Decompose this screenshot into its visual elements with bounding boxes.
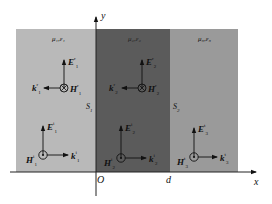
E3t-label: Et3 <box>198 124 208 136</box>
H2r-label: Hr2 <box>148 84 159 96</box>
k1i-label: ki1 <box>71 151 79 163</box>
d-label: d <box>166 175 171 185</box>
H3t-label: Ht3 <box>177 157 188 169</box>
E1r-label: Er1 <box>68 57 78 69</box>
k3t-label: kt3 <box>220 153 228 165</box>
region-1-media-label: μ₁,ε₁ <box>52 36 65 43</box>
region-3-medium <box>170 29 238 172</box>
H1r-label: Hr1 <box>70 84 81 96</box>
H1i-label: Hi1 <box>26 155 37 167</box>
wave-reflection-diagram <box>0 0 272 204</box>
origin-label: O <box>97 175 104 185</box>
E2r-label: Er2 <box>146 57 156 69</box>
x-axis-label: x <box>254 177 258 187</box>
region-2-slab <box>96 29 170 172</box>
k1r-label: kr1 <box>32 83 41 95</box>
surface-s1-label: S1 <box>86 103 93 113</box>
E1i-label: Ei1 <box>47 122 57 134</box>
region-1-medium <box>16 29 96 172</box>
surface-s2-label: S2 <box>173 103 180 113</box>
region-3-media-label: μ₃,ε₃ <box>198 36 211 43</box>
k2r-label: kr2 <box>109 83 118 95</box>
E2i-label: Ei2 <box>125 123 135 135</box>
k2i-label: ki2 <box>149 154 157 166</box>
region-2-media-label: μ₂,ε₂ <box>128 36 141 43</box>
H2i-label: Hi2 <box>104 158 115 170</box>
y-axis-label: y <box>101 11 105 21</box>
